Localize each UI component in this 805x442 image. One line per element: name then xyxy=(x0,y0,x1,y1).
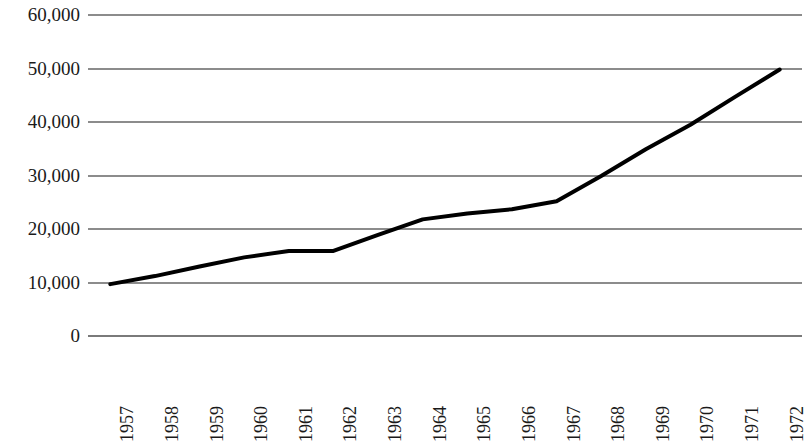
x-tick-label-1971: 1971 xyxy=(744,390,760,442)
x-tick-label-1964: 1964 xyxy=(432,390,448,442)
y-tick-label-60000: 60,000 xyxy=(0,5,80,24)
x-tick-label-1969: 1969 xyxy=(655,390,671,442)
x-tick-label-1972: 1972 xyxy=(789,390,805,442)
x-tick-label-1965: 1965 xyxy=(476,390,492,442)
y-tick-label-10000: 10,000 xyxy=(0,273,80,292)
y-axis-tick-labels: 60,00050,00040,00030,00020,00010,0000 xyxy=(0,0,80,392)
y-tick-label-40000: 40,000 xyxy=(0,112,80,131)
x-tick-label-1957: 1957 xyxy=(119,390,135,442)
x-tick-label-1960: 1960 xyxy=(253,390,269,442)
x-tick-label-1970: 1970 xyxy=(699,390,715,442)
data-series-line xyxy=(88,15,802,336)
y-tick-label-20000: 20,000 xyxy=(0,219,80,238)
x-axis-tick-labels: 1957195819591960196119621963196419651966… xyxy=(88,340,802,392)
x-tick-label-1968: 1968 xyxy=(610,390,626,442)
x-tick-label-1966: 1966 xyxy=(521,390,537,442)
x-tick-label-1967: 1967 xyxy=(566,390,582,442)
series-polyline xyxy=(110,70,779,285)
plot-area xyxy=(88,15,802,336)
x-tick-label-1962: 1962 xyxy=(342,390,358,442)
y-tick-label-50000: 50,000 xyxy=(0,59,80,78)
x-tick-label-1963: 1963 xyxy=(387,390,403,442)
x-tick-label-1961: 1961 xyxy=(298,390,314,442)
y-tick-label-0: 0 xyxy=(0,326,80,345)
y-tick-label-30000: 30,000 xyxy=(0,166,80,185)
chart-title xyxy=(0,0,805,5)
x-tick-label-1958: 1958 xyxy=(164,390,180,442)
x-tick-label-1959: 1959 xyxy=(209,390,225,442)
